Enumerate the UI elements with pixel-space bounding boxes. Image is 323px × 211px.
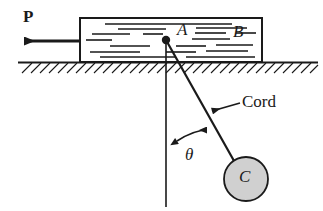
ground-hatching: [22, 63, 318, 73]
force-label-p: P: [23, 8, 33, 25]
ball-label-c: C: [239, 168, 250, 185]
point-label-a: A: [177, 21, 187, 38]
cord-label: Cord: [242, 93, 276, 110]
cord-leader-line: [212, 103, 240, 111]
angle-label-theta: θ: [185, 146, 193, 163]
block-label-b: B: [233, 23, 243, 40]
point-a-marker: [162, 36, 170, 44]
angle-arc-arrow: [177, 130, 207, 141]
physics-figure: P A B Cord θ C: [0, 0, 323, 211]
